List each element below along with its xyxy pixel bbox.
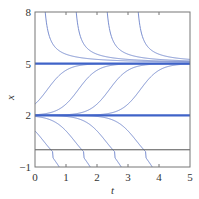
x-tick-label: 0 <box>32 171 38 183</box>
x-tick-label: 1 <box>63 171 69 183</box>
solution-curve <box>35 64 190 115</box>
x-tick-label: 4 <box>156 171 162 183</box>
x-tick-label: 5 <box>187 171 193 183</box>
solution-curve <box>35 131 71 176</box>
solution-curve <box>35 64 190 115</box>
y-tick-label: 8 <box>26 6 32 18</box>
y-tick-labels: −1258 <box>19 6 31 173</box>
y-axis-label: x <box>4 95 16 101</box>
solution-curve <box>35 64 190 104</box>
x-tick-labels: 012345 <box>32 171 193 183</box>
chart: 012345 −1258 t x <box>0 0 199 199</box>
x-tick-label: 2 <box>94 171 100 183</box>
y-tick-label: 5 <box>26 58 32 70</box>
x-axis-label: t <box>111 184 115 196</box>
y-tick-label: −1 <box>19 161 31 173</box>
y-tick-label: 2 <box>26 109 32 121</box>
solution-curve <box>35 64 190 116</box>
x-tick-label: 3 <box>125 171 131 183</box>
plot-frame <box>35 12 190 167</box>
